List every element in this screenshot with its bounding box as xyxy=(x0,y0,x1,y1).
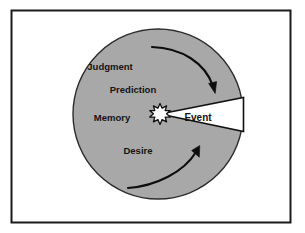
segment-label-judgment: Judgment xyxy=(87,61,133,72)
cycle-diagram: Judgment Prediction Memory Desire Event xyxy=(0,0,305,233)
segment-label-memory: Memory xyxy=(94,112,131,123)
wedge-label-event: Event xyxy=(184,112,212,123)
figure-container: Judgment Prediction Memory Desire Event xyxy=(0,0,305,233)
segment-label-prediction: Prediction xyxy=(110,84,157,95)
segment-label-desire: Desire xyxy=(123,145,152,156)
